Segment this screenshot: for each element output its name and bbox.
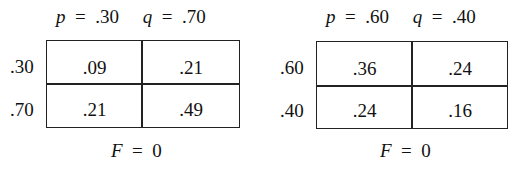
cell: .24 <box>317 101 412 121</box>
cell: .21 <box>47 100 142 120</box>
cell: .16 <box>413 101 507 121</box>
genotype-grid: .36 .24 .24 .16 <box>316 41 508 129</box>
p-label: p <box>56 6 66 27</box>
punnett-square-right: p = .60 q = .40 .60 .40 .36 .24 .24 .16 … <box>256 0 513 179</box>
row-label: .40 <box>280 101 304 121</box>
column-header: p = .60 q = .40 <box>326 6 476 28</box>
cell: .09 <box>47 58 142 78</box>
cell: .24 <box>413 59 507 79</box>
p-value: .30 <box>95 6 119 27</box>
row-label: .60 <box>280 58 304 78</box>
column-header: p = .30 q = .70 <box>56 6 206 28</box>
equals: = <box>70 6 90 27</box>
grid-divider <box>47 83 239 85</box>
cell: .49 <box>143 100 239 120</box>
row-label: .30 <box>10 57 34 77</box>
inbreeding-coefficient: F = 0 <box>380 140 431 162</box>
q-label: q <box>413 6 423 27</box>
f-value: 0 <box>152 140 162 161</box>
q-label: q <box>143 6 153 27</box>
f-label: F <box>380 140 392 161</box>
cell: .36 <box>317 59 412 79</box>
grid-divider <box>317 85 507 87</box>
row-label: .70 <box>10 100 34 120</box>
f-label: F <box>111 140 123 161</box>
q-value: .70 <box>182 6 206 27</box>
genotype-grid: .09 .21 .21 .49 <box>46 40 240 128</box>
q-value: .40 <box>452 6 476 27</box>
cell: .21 <box>143 58 239 78</box>
p-value: .60 <box>365 6 389 27</box>
inbreeding-coefficient: F = 0 <box>111 140 162 162</box>
p-label: p <box>326 6 336 27</box>
f-value: 0 <box>421 140 431 161</box>
punnett-square-left: p = .30 q = .70 .30 .70 .09 .21 .21 .49 … <box>0 0 256 179</box>
